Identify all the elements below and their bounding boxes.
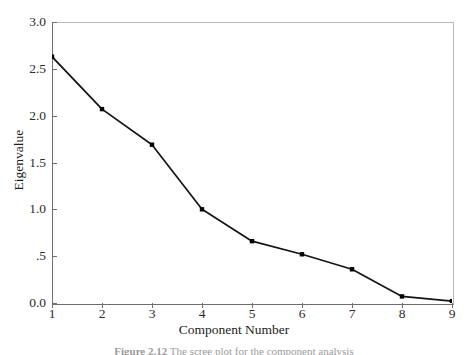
x-axis-tick-mark xyxy=(252,303,253,308)
figure-caption-text: The scree plot for the component analysi… xyxy=(170,345,354,355)
plot-area xyxy=(52,22,452,303)
x-axis-title: Component Number xyxy=(0,322,468,338)
eigenvalue-line xyxy=(52,57,452,301)
figure-caption-label: Figure 2.12 xyxy=(114,345,167,355)
data-point-marker xyxy=(200,207,204,211)
y-axis-tick-label: 1.0 xyxy=(29,202,46,216)
x-axis-tick-label: 6 xyxy=(287,306,317,322)
x-axis-tick-mark xyxy=(152,303,153,308)
x-axis-tick-mark xyxy=(52,303,53,308)
y-axis-tick-mark xyxy=(52,209,57,210)
y-axis-tick-mark xyxy=(52,256,57,257)
y-axis-tick-label: 3.0 xyxy=(29,15,46,29)
y-axis-tick-label: .5 xyxy=(36,249,46,263)
y-axis-tick-label: 2.5 xyxy=(29,62,46,76)
y-axis-tick-mark xyxy=(52,163,57,164)
y-axis-tick-label: 1.5 xyxy=(29,156,46,170)
data-point-marker xyxy=(100,107,104,111)
y-axis-title: Eigenvalue xyxy=(11,105,27,215)
x-axis-tick-label: 5 xyxy=(237,306,267,322)
data-point-marker xyxy=(250,239,254,243)
data-point-marker xyxy=(150,143,154,147)
eigenvalue-markers xyxy=(52,54,452,303)
x-axis-tick-label: 1 xyxy=(37,306,67,322)
data-point-marker xyxy=(300,252,304,256)
x-axis-tick-label: 8 xyxy=(387,306,417,322)
y-axis-tick-mark xyxy=(52,116,57,117)
x-axis-tick-label: 9 xyxy=(437,306,467,322)
data-point-marker xyxy=(52,54,54,58)
x-axis-tick-label: 4 xyxy=(187,306,217,322)
scree-plot-svg xyxy=(52,22,452,303)
x-axis-tick-mark xyxy=(452,303,453,308)
figure-caption: Figure 2.12 The scree plot for the compo… xyxy=(0,345,468,355)
x-axis-tick-mark xyxy=(202,303,203,308)
y-axis-tick-mark xyxy=(52,22,57,23)
x-axis-tick-label: 2 xyxy=(87,306,117,322)
x-axis-tick-mark xyxy=(102,303,103,308)
x-axis-tick-label: 7 xyxy=(337,306,367,322)
data-point-marker xyxy=(350,267,354,271)
x-axis-tick-label: 3 xyxy=(137,306,167,322)
x-axis-tick-mark xyxy=(302,303,303,308)
x-axis-tick-mark xyxy=(352,303,353,308)
y-axis-tick-mark xyxy=(52,69,57,70)
figure-container: 3.02.52.01.51.0.50.0 123456789 Eigenvalu… xyxy=(0,0,468,355)
y-axis-tick-label: 2.0 xyxy=(29,109,46,123)
x-axis-tick-mark xyxy=(402,303,403,308)
data-point-marker xyxy=(400,294,404,298)
